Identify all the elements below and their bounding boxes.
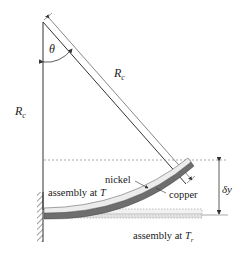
assembly-at-t-label: assembly at T	[48, 187, 107, 198]
fixed-wall-hatch	[37, 192, 43, 242]
copper-label: copper	[169, 189, 198, 200]
nickel-label: nickel	[105, 174, 131, 185]
rc-vertical-label: Rc	[14, 104, 26, 120]
delta-y-label: δy	[222, 183, 232, 195]
rc-dimension-tick-bottom	[187, 176, 195, 183]
assembly-at-tr-label: assembly at Tr	[133, 230, 194, 244]
rc-diagonal-label: Rc	[113, 66, 125, 82]
rc-dimension-line	[49, 18, 192, 180]
bimetal-strip-diagram: θ Rc Rc nickel copper assembly at T asse…	[0, 0, 245, 257]
theta-label: θ	[49, 42, 55, 56]
theta-arc	[43, 49, 72, 62]
rc-dimension-tick-top	[44, 13, 52, 20]
